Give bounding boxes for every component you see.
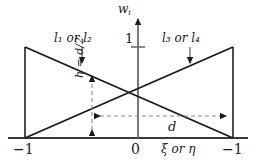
shape-function-figure: l₁ or l₂ l₃ or l₄ wi 1 −1 0 ξ or η −1 d … [0, 0, 256, 166]
annotation-label-right-lines: l₃ or l₄ [162, 32, 200, 44]
y-axis-label: wi [118, 3, 131, 16]
y-tick-label-one: 1 [125, 32, 133, 45]
dimension-label-height: h = d/2 [74, 37, 85, 78]
dimension-label-width: d [168, 120, 176, 133]
x-axis-label: ξ or η [161, 143, 195, 155]
y-axis-label-base: w [118, 2, 128, 16]
x-tick-label-right: −1 [222, 142, 243, 156]
y-axis-label-subscript: i [128, 7, 131, 17]
x-tick-label-left: −1 [13, 142, 34, 156]
x-tick-label-origin: 0 [131, 142, 140, 156]
figure-canvas [0, 0, 256, 166]
